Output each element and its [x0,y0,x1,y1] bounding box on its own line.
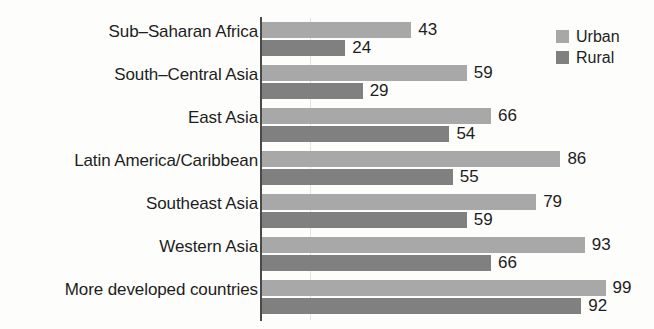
legend-swatch-icon [556,30,569,43]
bar-value-label: 59 [467,63,493,83]
bar-value-label: 79 [536,192,562,212]
bar-track: 93 [262,237,609,253]
category-label: More developed countries [0,281,258,298]
bar-value-label: 93 [585,235,611,255]
bar-track: 29 [262,83,609,99]
legend-item-urban[interactable]: Urban [556,27,620,46]
bar-track: 55 [262,169,609,185]
legend-label: Rural [576,50,614,66]
legend-item-rural[interactable]: Rural [556,48,620,67]
bar-rural [262,298,581,314]
bar-track: 54 [262,126,609,142]
bar-value-label: 54 [449,124,475,144]
category-label: Southeast Asia [0,195,258,212]
bar-urban [262,22,411,38]
category-label: Western Asia [0,238,258,255]
bar-value-label: 92 [581,296,607,316]
bar-track: 86 [262,151,609,167]
bar-value-label: 86 [560,149,586,169]
bar-rural [262,126,449,142]
bar-track: 59 [262,212,609,228]
bar-value-label: 29 [363,81,389,101]
bar-value-label: 24 [345,38,371,58]
legend-label: Urban [576,29,620,45]
bar-urban [262,237,585,253]
legend-swatch-icon [556,51,569,64]
bar-track: 66 [262,255,609,271]
bar-track: 79 [262,194,609,210]
bar-value-label: 55 [453,167,479,187]
bar-value-label: 59 [467,210,493,230]
bar-rural [262,83,363,99]
bar-track: 99 [262,280,609,296]
bar-rural [262,212,467,228]
bar-track: 92 [262,298,609,314]
bar-urban [262,151,560,167]
bar-urban [262,108,491,124]
bar-value-label: 66 [491,253,517,273]
bar-urban [262,65,467,81]
category-label: Latin America/Caribbean [0,152,258,169]
bar-chart: Sub–Saharan Africa4324South–Central Asia… [0,0,654,329]
bar-rural [262,169,453,185]
category-label: Sub–Saharan Africa [0,23,258,40]
bar-track: 66 [262,108,609,124]
bar-rural [262,40,345,56]
bar-value-label: 66 [491,106,517,126]
bar-rural [262,255,491,271]
bar-value-label: 43 [411,20,437,40]
chart-legend: UrbanRural [556,27,620,69]
bar-urban [262,280,606,296]
bar-value-label: 99 [606,278,632,298]
bar-urban [262,194,536,210]
category-label: South–Central Asia [0,66,258,83]
category-label: East Asia [0,109,258,126]
